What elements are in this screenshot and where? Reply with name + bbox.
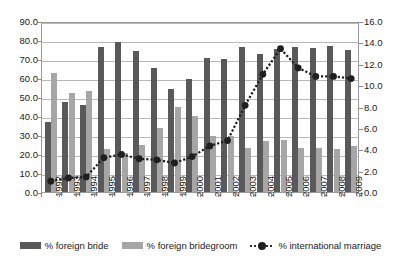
bar-light-swatch-icon [122,242,143,249]
legend-item-label: % international marriage [278,240,381,251]
y-axis-left-tick-label: 60.0 [4,74,38,84]
x-axis-tick-mark [341,193,342,197]
chart-legend: % foreign bride% foreign bridegroom% int… [0,240,401,251]
line-marker [136,155,143,162]
x-axis-tick-mark [165,193,166,197]
line-marker [189,153,196,160]
line-marker [259,71,266,78]
legend-item-label: % foreign bridegroom [147,240,238,251]
x-axis-tick-mark [59,193,60,197]
x-axis-tick-mark [200,193,201,197]
y-axis-left-tick-label: 20.0 [4,150,38,160]
x-axis-tick-mark [94,193,95,197]
line-marker [153,156,160,163]
chart-container: 0.010.020.030.040.050.060.070.080.090.0 … [0,0,401,269]
y-axis-right-tick-label: 0.0 [364,188,398,198]
line-marker [348,75,355,82]
x-axis-tick-mark [182,193,183,197]
x-axis-tick-mark [359,193,360,197]
bar-dark-swatch-icon [20,242,41,249]
x-axis-tick-mark [129,193,130,197]
line-marker [100,154,107,161]
y-axis-right-tick-label: 12.0 [364,60,398,70]
y-axis-right-tick-label: 8.0 [364,103,398,113]
y-axis-right-tick-label: 2.0 [364,167,398,177]
y-axis-right-tick-label: 16.0 [364,17,398,27]
y-axis-left-tick-label: 10.0 [4,169,38,179]
x-axis-tick-mark [271,193,272,197]
y-axis-left-tick-label: 50.0 [4,93,38,103]
x-axis-tick-mark [324,193,325,197]
x-axis-tick-mark [112,193,113,197]
y-axis-left-tick-label: 70.0 [4,55,38,65]
y-axis-right-tick-label: 10.0 [364,81,398,91]
line-marker [312,73,319,80]
line-marker [295,64,302,71]
y-axis-left-tick-label: 40.0 [4,112,38,122]
legend-item-label: % foreign bride [45,240,109,251]
legend-item[interactable]: % foreign bride [20,240,109,251]
line-series-international-marriage [42,23,360,194]
x-axis-tick-mark [235,193,236,197]
y-axis-right-tick-label: 14.0 [364,38,398,48]
line-marker [118,151,125,158]
x-axis-tick-mark [306,193,307,197]
x-axis-tick-mark [253,193,254,197]
x-axis-tick-mark [218,193,219,197]
legend-item[interactable]: % foreign bridegroom [122,240,238,251]
line-marker-swatch-icon [250,241,274,250]
x-axis-tick-mark [76,193,77,197]
y-axis-left-tick-label: 90.0 [4,17,38,27]
y-axis-left-tick-label: 0.0 [4,188,38,198]
line-marker [277,45,284,52]
line-marker [330,73,337,80]
y-axis-left-tick-label: 80.0 [4,36,38,46]
x-axis-tick-mark [147,193,148,197]
line-marker [242,102,249,109]
x-axis-tick-mark [41,193,42,197]
plot-area [41,22,359,193]
line-marker [224,137,231,144]
line-marker [171,160,178,167]
y-axis-left-tick-label: 30.0 [4,131,38,141]
y-axis-right-tick-label: 4.0 [364,145,398,155]
y-axis-right-tick-label: 6.0 [364,124,398,134]
line-path-international-marriage [51,49,351,182]
legend-item[interactable]: % international marriage [250,240,381,251]
x-axis-tick-mark [288,193,289,197]
line-marker [206,143,213,150]
